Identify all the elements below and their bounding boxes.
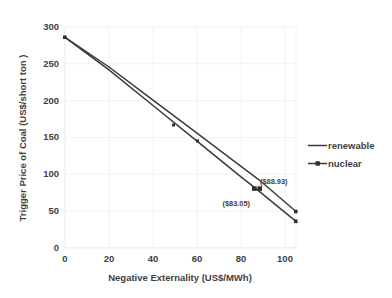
y-tick-100: 100 xyxy=(43,168,59,179)
legend-item-nuclear[interactable]: nuclear xyxy=(308,158,362,169)
y-axis-title: Trigger Price of Coal (US$/short ton ) xyxy=(17,55,28,222)
x-tick-100: 100 xyxy=(277,253,293,264)
legend-item-renewable[interactable]: renewable xyxy=(308,140,374,151)
x-axis-title: Negative Externality (US$/MWh) xyxy=(108,272,252,283)
annotation-83-05: ($83.05) xyxy=(222,199,250,208)
y-axis-tick-labels: 0 50 100 150 200 250 300 xyxy=(43,21,59,253)
y-tick-50: 50 xyxy=(48,205,59,216)
x-tick-40: 40 xyxy=(148,253,159,264)
data-point-88-93[interactable] xyxy=(257,186,262,191)
legend-marker-nuclear xyxy=(316,161,320,165)
annotation-88-93: ($88.93) xyxy=(260,177,288,186)
x-tick-60: 60 xyxy=(192,253,203,264)
y-tick-150: 150 xyxy=(43,131,59,142)
y-tick-300: 300 xyxy=(43,21,59,32)
data-point-83-05[interactable] xyxy=(252,186,257,191)
chart-container: 0 50 100 150 200 250 300 0 20 40 60 80 1… xyxy=(0,0,392,298)
x-tick-0: 0 xyxy=(62,253,67,264)
legend-label-nuclear: nuclear xyxy=(328,158,362,169)
y-tick-250: 250 xyxy=(43,58,59,69)
x-axis-tick-labels: 0 20 40 60 80 100 xyxy=(62,253,293,264)
y-tick-200: 200 xyxy=(43,95,59,106)
x-tick-20: 20 xyxy=(104,253,115,264)
y-tick-0: 0 xyxy=(54,242,59,253)
line-chart: 0 50 100 150 200 250 300 0 20 40 60 80 1… xyxy=(0,0,392,298)
chart-legend: renewable nuclear xyxy=(308,140,374,169)
x-tick-80: 80 xyxy=(236,253,247,264)
legend-label-renewable: renewable xyxy=(328,140,374,151)
